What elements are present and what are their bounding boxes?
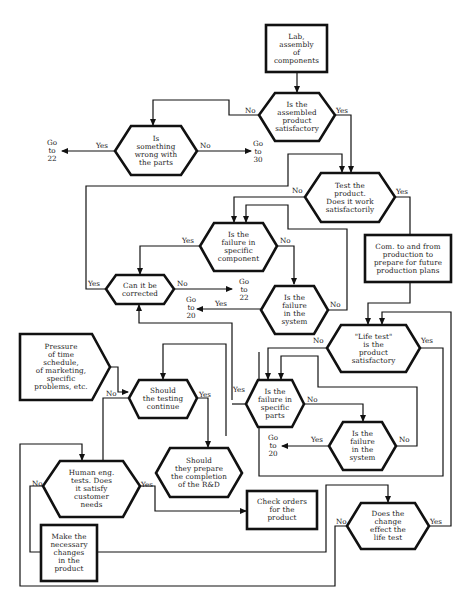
- goto-30: Go to 30: [253, 140, 263, 164]
- node-testing-continue: Should the testing continue: [131, 380, 195, 418]
- node-human-eng: Human eng. tests. Does it satisfy custom…: [46, 461, 137, 517]
- label-yes-failure-parts: Yes: [233, 386, 245, 394]
- goto-20-lower: Go to 20: [268, 434, 278, 458]
- node-test-product: Test the product. Does it work satisfact…: [308, 173, 392, 222]
- label-yes-failure-system-2: Yes: [311, 436, 323, 444]
- label-no-failure-parts: No: [307, 396, 318, 404]
- node-life-test: "Life test" is the product satisfactory: [330, 325, 417, 372]
- label-yes-failure-system-1: Yes: [215, 300, 227, 308]
- node-pressure: Pressure of time schedule, of marketing,…: [20, 334, 102, 400]
- goto-20-upper: Go to 20: [186, 296, 196, 320]
- node-check-orders: Check orders for the product: [247, 491, 317, 529]
- label-no-test-product: No: [292, 187, 303, 195]
- goto-22-top: Go to 22: [47, 139, 57, 163]
- label-yes-wrong-parts: Yes: [96, 142, 108, 150]
- node-lab-assembly: Lab, assembly of components: [266, 25, 327, 72]
- node-failure-system-1: Is the failure in the system: [263, 286, 326, 334]
- goto-22-mid: Go to 22: [239, 278, 249, 302]
- label-no-can-be-corrected: No: [177, 280, 188, 288]
- node-failure-component: Is the failure in specific component: [203, 223, 274, 271]
- node-failure-parts: Is the failure in specific parts: [248, 380, 302, 427]
- label-yes-change-effect: Yes: [430, 518, 442, 526]
- label-no-wrong-parts: No: [200, 142, 211, 150]
- label-no-testing-continue: No: [106, 390, 117, 398]
- node-change-effect: Does the change effect the life test: [350, 503, 426, 549]
- label-no-failure-system-1: No: [330, 301, 341, 309]
- node-prepare-completion: Should they prepare the completion of th…: [158, 448, 240, 497]
- label-yes-failure-component: Yes: [182, 237, 194, 245]
- label-yes-assembled: Yes: [336, 107, 348, 115]
- label-yes-testing-continue: Yes: [199, 391, 211, 399]
- label-yes-test-product: Yes: [396, 188, 408, 196]
- node-com-production: Com. to and from production to prepare f…: [365, 235, 451, 282]
- label-no-failure-component: No: [280, 237, 291, 245]
- node-wrong-with-parts: Is something wrong with the parts: [118, 126, 194, 175]
- label-no-failure-system-2: No: [399, 436, 410, 444]
- node-make-changes: Make the necessary changes in the produc…: [41, 525, 97, 581]
- label-yes-life-test: Yes: [421, 337, 433, 345]
- node-can-be-corrected: Can it be corrected: [108, 275, 172, 304]
- label-yes-human-eng: Yes: [141, 481, 153, 489]
- label-no-life-test: No: [313, 337, 324, 345]
- label-no-human-eng: No: [32, 480, 43, 488]
- node-assembled-satisfactory: Is the assembled product satisfactory: [262, 93, 332, 141]
- label-yes-can-be-corrected: Yes: [88, 280, 100, 288]
- label-no-assembled: No: [245, 107, 256, 115]
- label-no-change-effect: No: [336, 518, 347, 526]
- node-failure-system-2: Is the failure in the system: [331, 422, 394, 470]
